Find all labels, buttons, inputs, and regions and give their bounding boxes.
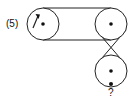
given-speed-label: (5)	[6, 19, 18, 29]
pulley-right-bottom-marker	[109, 82, 113, 86]
unknown-label: ?	[108, 88, 114, 98]
pulley-right-bottom-axle	[109, 69, 113, 73]
pulley-left-axle	[41, 22, 45, 26]
pulley-right-top-axle	[109, 22, 113, 26]
